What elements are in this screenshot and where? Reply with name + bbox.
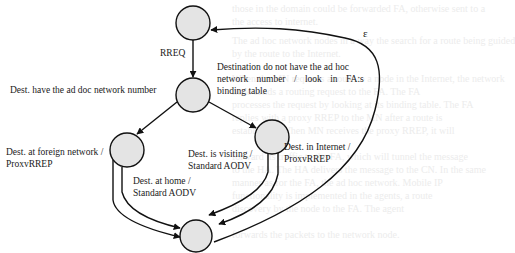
label-internet-line1: Dest. in Internet / [284, 141, 350, 153]
state-node-foreign-network [110, 133, 144, 167]
label-internet-line2: ProxvRREP [284, 153, 330, 165]
label-home-line2: Standard AODV [133, 187, 196, 199]
label-dest-have-adhoc: Dest. have the ad doc network number [10, 84, 156, 96]
edge-dest-have-adhoc [137, 102, 177, 134]
label-rreq: RREQ [160, 47, 185, 59]
label-visiting-line1: Dest. is visiting / [188, 148, 252, 160]
state-node-end [180, 220, 212, 252]
label-dest-not-have-line2: network number / look in FA:s [217, 73, 364, 85]
label-home-line1: Dest. at home / [133, 175, 191, 187]
label-foreign-line1: Dest. at foreign network / [6, 146, 103, 158]
label-foreign-line2: ProxvRREP [6, 158, 52, 170]
label-visiting-line2: Standard AODV [188, 160, 251, 172]
label-dest-not-have-line3: binding table [217, 85, 267, 97]
state-node-start [176, 6, 210, 40]
state-node-rreq-received [176, 78, 210, 112]
edge-dest-not-have-adhoc [209, 102, 256, 128]
label-epsilon: ε [363, 27, 368, 39]
label-dest-not-have-line1: Destination do not have the ad hoc [217, 61, 349, 73]
